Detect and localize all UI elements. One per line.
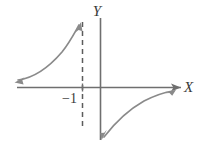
curve-left-branch — [18, 25, 79, 80]
x-axis-label: X — [183, 79, 194, 95]
curve-left-branch-arrowhead-end — [75, 22, 82, 32]
graph-canvas: Y X −1 — [0, 0, 198, 156]
y-axis-label: Y — [93, 3, 103, 19]
curve-left-branch-arrowhead-start — [15, 77, 25, 84]
graph-figure: Y X −1 — [0, 0, 198, 156]
curve-right-branch — [104, 91, 173, 137]
tick-label-minus-one: −1 — [62, 91, 77, 106]
